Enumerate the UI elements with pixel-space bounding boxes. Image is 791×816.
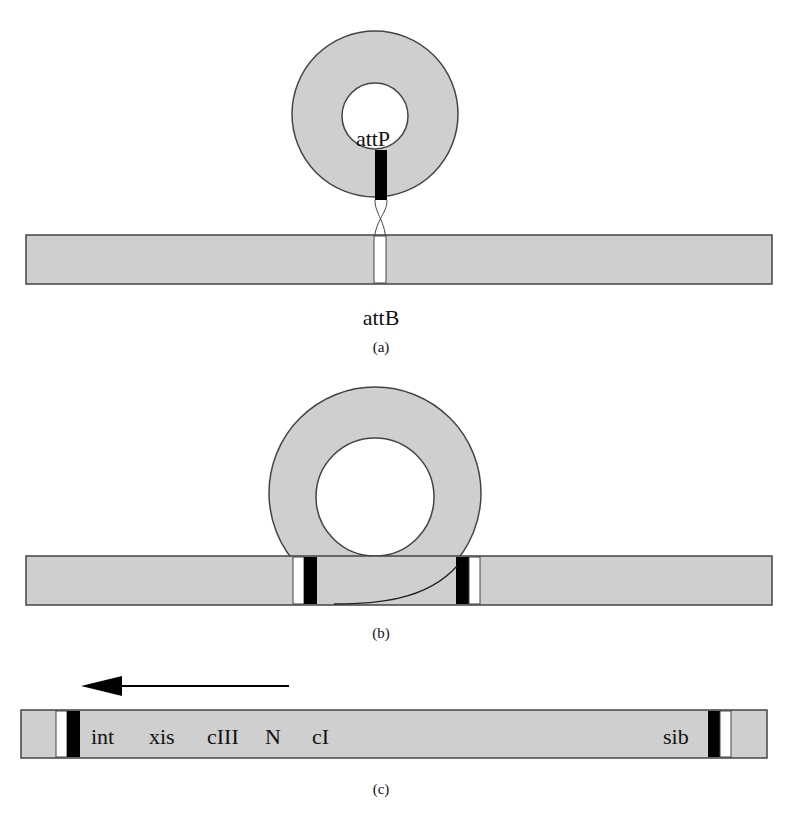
panel-a: attP attB (a) [26,31,772,356]
panel-b: (b) [26,387,772,642]
panel-c: intxiscIIINcIsib (c) [21,676,767,798]
caption-a: (a) [373,339,390,356]
left-att-core-b [304,557,317,604]
caption-b: (b) [372,625,390,642]
attb-label: attB [363,305,400,330]
left-att-flank-c [56,711,67,757]
gene-label-ciii: cIII [207,724,239,749]
gene-label-int: int [91,724,114,749]
attb-site-gap [374,236,386,283]
attp-site-bar [375,150,387,200]
right-att-flank-b [469,557,480,604]
lambda-integration-figure: attP attB (a) (b) intxisc [0,0,791,816]
prophage-bar [21,710,767,758]
caption-c: (c) [373,781,390,798]
left-att-core-c [67,711,80,757]
right-att-core-b [456,557,469,604]
bacterial-chromosome-a [26,235,772,284]
gene-label-ci: cI [312,724,329,749]
transcription-arrow-icon [81,676,289,696]
gene-label-sib: sib [663,724,689,749]
attp-label: attP [356,126,390,151]
gene-label-xis: xis [149,724,175,749]
right-att-core-c [708,711,720,757]
right-att-flank-c [720,711,731,757]
left-att-flank-b [293,557,304,604]
gene-label-n: N [265,724,281,749]
